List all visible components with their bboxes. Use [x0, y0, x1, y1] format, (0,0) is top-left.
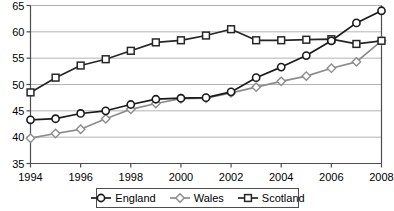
data-point-marker [378, 37, 385, 44]
series-wales [26, 37, 385, 143]
data-point-marker [353, 41, 360, 48]
data-point-marker [52, 74, 59, 81]
legend-item-england[interactable]: England [90, 192, 155, 204]
data-point-marker [203, 32, 210, 39]
chart-legend: EnglandWalesScotland [96, 188, 299, 208]
data-point-marker [77, 110, 84, 117]
data-point-marker [127, 101, 134, 108]
y-axis-tick-label: 40 [12, 131, 24, 143]
data-point-marker [152, 39, 159, 46]
data-point-marker [178, 37, 185, 44]
data-point-marker [52, 115, 59, 122]
data-point-marker [127, 47, 134, 54]
circle-marker-icon [90, 192, 112, 204]
y-axis-tick-label: 50 [12, 79, 24, 91]
x-axis-tick-label: 1998 [119, 171, 143, 183]
x-axis-tick-label: 2002 [219, 171, 243, 183]
data-point-marker [302, 72, 310, 80]
x-axis-tick-label: 2004 [269, 171, 293, 183]
data-point-marker [176, 194, 184, 202]
x-axis-tick-label: 2000 [169, 171, 193, 183]
data-point-marker [303, 36, 310, 43]
y-axis-tick-label: 35 [12, 158, 24, 170]
data-point-marker [202, 94, 209, 101]
data-point-marker [253, 74, 260, 81]
legend-item-wales[interactable]: Wales [169, 192, 224, 204]
legend-item-scotland[interactable]: Scotland [237, 192, 305, 204]
data-point-marker [244, 195, 251, 202]
x-axis-tick-label: 1994 [18, 171, 42, 183]
y-axis-tick-label: 65 [12, 0, 24, 12]
data-point-marker [378, 7, 385, 14]
data-point-marker [253, 37, 260, 44]
diamond-marker-icon [169, 192, 191, 204]
data-point-marker [303, 52, 310, 59]
data-point-marker [98, 194, 105, 201]
data-point-marker [102, 107, 109, 114]
y-axis-tick-label: 60 [12, 26, 24, 38]
legend-label: Scotland [262, 193, 305, 204]
data-point-marker [51, 129, 59, 137]
y-axis-tick-label: 55 [12, 52, 24, 64]
data-point-marker [278, 64, 285, 71]
legend-label: Wales [194, 193, 224, 204]
data-point-marker [152, 96, 159, 103]
legend-label: England [115, 193, 155, 204]
data-point-marker [27, 89, 34, 96]
data-point-marker [26, 134, 34, 142]
line-chart: 3540455055606519941996199820002002200420… [0, 0, 394, 211]
data-point-marker [177, 95, 184, 102]
series-line-wales [31, 41, 382, 138]
chart-plot-area: 3540455055606519941996199820002002200420… [0, 0, 394, 211]
data-point-marker [27, 116, 34, 123]
data-point-marker [328, 37, 335, 44]
x-axis-tick-label: 2008 [369, 171, 393, 183]
data-point-marker [76, 125, 84, 133]
data-point-marker [77, 62, 84, 69]
series-scotland [27, 26, 385, 96]
data-point-marker [228, 26, 235, 33]
y-axis-tick-label: 45 [12, 105, 24, 117]
data-point-marker [353, 19, 360, 26]
data-point-marker [278, 37, 285, 44]
data-point-marker [327, 64, 335, 72]
square-marker-icon [237, 192, 259, 204]
data-point-marker [102, 56, 109, 63]
x-axis-tick-label: 1996 [68, 171, 92, 183]
data-point-marker [227, 88, 234, 95]
data-point-marker [102, 115, 110, 123]
x-axis-tick-label: 2006 [319, 171, 343, 183]
